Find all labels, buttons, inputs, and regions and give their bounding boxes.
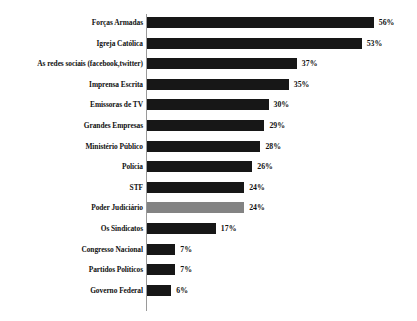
bar-value-label: 56% bbox=[379, 17, 395, 28]
bar bbox=[147, 182, 244, 193]
bar-value-label: 17% bbox=[221, 223, 237, 234]
bar-row: Congresso Nacional7% bbox=[0, 244, 417, 263]
bar-row: Polícia26% bbox=[0, 161, 417, 180]
bar-value-label: 6% bbox=[176, 285, 188, 296]
category-label: Igreja Católica bbox=[0, 38, 143, 49]
plot-area: Forças Armadas56%Igreja Católica53%As re… bbox=[0, 0, 417, 321]
bar-row: Forças Armadas56% bbox=[0, 17, 417, 36]
bar bbox=[147, 120, 264, 131]
bar bbox=[147, 264, 175, 275]
bar-row: Os Sindicatos17% bbox=[0, 223, 417, 242]
bar bbox=[147, 141, 260, 152]
bar-row: Emissoras de TV30% bbox=[0, 99, 417, 118]
bar-chart: Forças Armadas56%Igreja Católica53%As re… bbox=[0, 0, 417, 321]
bar-value-label: 30% bbox=[274, 99, 290, 110]
bar bbox=[147, 202, 244, 213]
category-label: Polícia bbox=[0, 161, 143, 172]
bar bbox=[147, 79, 289, 90]
bar-value-label: 7% bbox=[180, 264, 192, 275]
bar-value-label: 7% bbox=[180, 244, 192, 255]
category-label: Os Sindicatos bbox=[0, 223, 143, 234]
bar-row: Partidos Políticos7% bbox=[0, 264, 417, 283]
category-label: Forças Armadas bbox=[0, 17, 143, 28]
bar-row: Grandes Empresas29% bbox=[0, 120, 417, 139]
bar bbox=[147, 99, 269, 110]
bar bbox=[147, 17, 374, 28]
category-label: Emissoras de TV bbox=[0, 99, 143, 110]
bar-value-label: 28% bbox=[265, 141, 281, 152]
bar-value-label: 53% bbox=[367, 38, 383, 49]
bar-value-label: 35% bbox=[294, 79, 310, 90]
category-label: STF bbox=[0, 182, 143, 193]
bar-row: Poder Judiciário24% bbox=[0, 202, 417, 221]
bar-row: Imprensa Escrita35% bbox=[0, 79, 417, 98]
bar-value-label: 29% bbox=[269, 120, 285, 131]
bar bbox=[147, 38, 362, 49]
category-label: Imprensa Escrita bbox=[0, 79, 143, 90]
bar-row: As redes sociais (facebook,twitter)37% bbox=[0, 58, 417, 77]
bar bbox=[147, 161, 252, 172]
bar-value-label: 24% bbox=[249, 182, 265, 193]
category-label: Poder Judiciário bbox=[0, 202, 143, 213]
bar-row: Governo Federal6% bbox=[0, 285, 417, 304]
category-label: Governo Federal bbox=[0, 285, 143, 296]
bar-value-label: 24% bbox=[249, 202, 265, 213]
category-label: Congresso Nacional bbox=[0, 244, 143, 255]
bar-value-label: 37% bbox=[302, 58, 318, 69]
category-label: Ministério Público bbox=[0, 141, 143, 152]
bar bbox=[147, 244, 175, 255]
bar-row: Ministério Público28% bbox=[0, 141, 417, 160]
bar-row: STF24% bbox=[0, 182, 417, 201]
bar bbox=[147, 58, 297, 69]
bar bbox=[147, 285, 171, 296]
category-label: Grandes Empresas bbox=[0, 120, 143, 131]
bar-row: Igreja Católica53% bbox=[0, 38, 417, 57]
bar-value-label: 26% bbox=[257, 161, 273, 172]
category-label: As redes sociais (facebook,twitter) bbox=[0, 58, 143, 69]
bar bbox=[147, 223, 216, 234]
category-label: Partidos Políticos bbox=[0, 264, 143, 275]
